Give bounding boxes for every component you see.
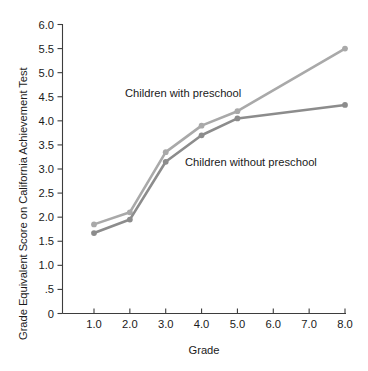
data-point-marker — [342, 46, 348, 52]
y-tick-label: 1.0 — [38, 259, 54, 271]
series-annotation-with-preschool: Children with preschool — [125, 87, 241, 99]
x-tick-label: 8.0 — [337, 318, 353, 330]
x-tick-label: 4.0 — [194, 318, 210, 330]
y-tick-label: 3.5 — [38, 139, 54, 151]
y-tick-label: 5.5 — [38, 43, 54, 55]
plot-area: 0.51.01.52.02.53.03.54.04.55.05.56.0 1.0… — [0, 0, 368, 371]
y-tick-label: .5 — [45, 283, 54, 295]
data-point-marker — [199, 132, 205, 138]
data-point-marker — [127, 217, 133, 223]
y-axis-ticks: 0.51.01.52.02.53.03.54.04.55.05.56.0 — [38, 19, 62, 320]
y-tick-label: 1.5 — [38, 235, 54, 247]
y-tick-label: 6.0 — [38, 19, 54, 31]
data-point-marker — [342, 102, 348, 108]
data-point-marker — [163, 159, 169, 165]
x-tick-label: 5.0 — [230, 318, 246, 330]
x-tick-label: 3.0 — [158, 318, 174, 330]
y-tick-label: 2.0 — [38, 211, 54, 223]
y-tick-label: 2.5 — [38, 187, 54, 199]
data-point-marker — [91, 230, 97, 236]
line-chart: Grade Equivalent Score on California Ach… — [0, 0, 368, 371]
x-tick-label: 2.0 — [122, 318, 138, 330]
data-point-marker — [163, 149, 169, 155]
y-tick-label: 3.0 — [38, 163, 54, 175]
x-tick-label: 6.0 — [266, 318, 282, 330]
y-tick-label: 5.0 — [38, 67, 54, 79]
x-axis-ticks: 1.02.03.04.05.06.07.08.0 — [86, 309, 353, 331]
series-layer — [91, 46, 348, 236]
y-tick-label: 0 — [48, 308, 54, 320]
series-line-with-preschool — [94, 49, 345, 225]
data-point-marker — [199, 123, 205, 129]
x-axis-title: Grade — [62, 344, 346, 356]
y-tick-label: 4.5 — [38, 91, 54, 103]
x-tick-label: 1.0 — [86, 318, 102, 330]
data-point-marker — [235, 108, 241, 114]
y-tick-label: 4.0 — [38, 115, 54, 127]
data-point-marker — [235, 116, 241, 122]
x-tick-label: 7.0 — [301, 318, 317, 330]
series-annotation-without-preschool: Children without preschool — [185, 156, 317, 168]
data-point-marker — [91, 221, 97, 227]
